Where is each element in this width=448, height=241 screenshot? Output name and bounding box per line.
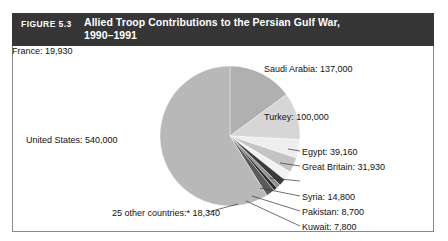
leader-line — [252, 196, 300, 211]
leader-line — [246, 201, 300, 226]
slice-label-other-countries: 25 other countries:* 18,340 — [112, 208, 220, 218]
slice-label-pakistan: Pakistan: 8,700 — [302, 207, 364, 217]
slice-label-kuwait: Kuwait: 7,800 — [302, 222, 357, 232]
slice-label-syria: Syria: 14,800 — [302, 192, 355, 202]
figure-title: Allied Troop Contributions to the Persia… — [84, 16, 429, 42]
figure-title-line-2: 1990–1991 — [84, 29, 429, 42]
slice-label-united-states: United States: 540,000 — [26, 135, 118, 145]
slice-label-saudi-arabia: Saudi Arabia: 137,000 — [264, 64, 353, 74]
pie-slice-group — [160, 66, 300, 206]
figure-header-bar: FIGURE 5.3 Allied Troop Contributions to… — [12, 13, 434, 46]
figure-title-line-1: Allied Troop Contributions to the Persia… — [84, 16, 340, 28]
chart-plot-area: Saudi Arabia: 137,000 Turkey: 100,000 Eg… — [12, 46, 434, 232]
slice-label-turkey: Turkey: 100,000 — [264, 112, 329, 122]
figure-root: FIGURE 5.3 Allied Troop Contributions to… — [0, 0, 448, 241]
figure-number-label: FIGURE 5.3 — [21, 19, 72, 29]
slice-label-egypt: Egypt: 39,160 — [302, 147, 358, 157]
slice-label-france: France: 19,930 — [12, 46, 73, 56]
slice-label-great-britain: Great Britain: 31,930 — [302, 162, 385, 172]
